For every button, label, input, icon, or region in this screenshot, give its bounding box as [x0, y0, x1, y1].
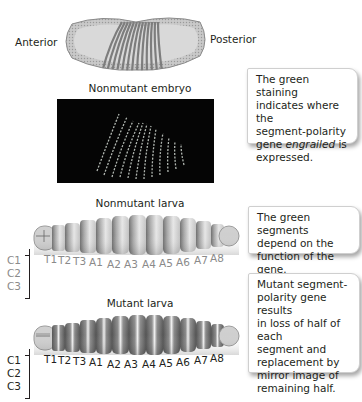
callout-line: gene engrailed is — [256, 138, 351, 151]
head-label-c1: C1 — [7, 254, 21, 267]
posterior-label: Posterior — [210, 33, 256, 45]
gene-name: engrailed — [286, 138, 336, 150]
segment-label-a2: A2 — [107, 358, 121, 370]
mutant-larva-title: Mutant larva — [80, 297, 200, 309]
segment-label-a1: A1 — [89, 356, 103, 368]
bracket-connector — [29, 349, 30, 375]
callout-text: is — [335, 138, 347, 150]
segment-label-a8: A8 — [210, 252, 224, 264]
segment-label-a3: A3 — [124, 258, 138, 270]
mutant-callout: Mutant segment- polarity gene results in… — [248, 273, 360, 373]
callout-line: polarity gene results — [257, 291, 353, 317]
segment-label-t1: T1 — [44, 253, 57, 265]
head-label-c1: C1 — [7, 354, 21, 367]
segment-label-a2: A2 — [107, 258, 121, 270]
nonmutant-larva-title: Nonmutant larva — [80, 197, 200, 209]
segment-label-a3: A3 — [124, 358, 138, 370]
segment-label-a6: A6 — [176, 356, 190, 368]
segment-label-a5: A5 — [159, 357, 173, 369]
head-label-c2: C2 — [7, 367, 21, 380]
callout-line: mirror image of — [257, 369, 353, 382]
callout-line: segment-polarity — [256, 125, 351, 138]
head-label-c3: C3 — [7, 380, 21, 393]
segment-label-a7: A7 — [194, 254, 208, 266]
callout-line: expressed. — [256, 151, 351, 164]
segment-label-t3: T3 — [73, 355, 86, 367]
nonmutant-larva-drawing — [32, 212, 242, 256]
engrailed-callout: The green staining indicates where the s… — [247, 68, 358, 144]
callout-line: The green staining — [256, 73, 351, 99]
embryo-drawing — [62, 12, 210, 72]
segment-label-a5: A5 — [159, 257, 173, 269]
segment-label-a8: A8 — [210, 352, 224, 364]
nonmutant-embryo-title: Nonmutant embryo — [80, 82, 200, 94]
segment-label-t1: T1 — [44, 353, 57, 365]
bracket-connector — [29, 249, 30, 275]
callout-line: replacement by — [257, 356, 353, 369]
segment-label-a7: A7 — [194, 354, 208, 366]
anterior-label: Anterior — [15, 36, 57, 48]
head-label-c3: C3 — [7, 280, 21, 293]
callout-line: depend on the — [257, 237, 353, 250]
callout-text: gene — [256, 138, 286, 150]
segment-label-t2: T2 — [58, 354, 71, 366]
callout-line: indicates where the — [256, 99, 351, 125]
segment-label-a4: A4 — [142, 358, 156, 370]
segment-label-a6: A6 — [176, 256, 190, 268]
nonmutant-embryo-stain-image — [57, 99, 214, 183]
head-label-c2: C2 — [7, 267, 21, 280]
segment-label-t3: T3 — [73, 255, 86, 267]
callout-line: remaining half. — [257, 382, 353, 395]
callout-line: The green segments — [257, 211, 353, 237]
mutant-larva-drawing — [32, 312, 242, 356]
callout-line: in loss of half of each — [257, 317, 353, 343]
segment-label-t2: T2 — [58, 254, 71, 266]
green-segments-callout: The green segments depend on the functio… — [248, 206, 360, 254]
callout-line: Mutant segment- — [257, 278, 353, 291]
callout-line: segment and — [257, 343, 353, 356]
segment-label-a4: A4 — [142, 258, 156, 270]
segment-label-a1: A1 — [89, 256, 103, 268]
